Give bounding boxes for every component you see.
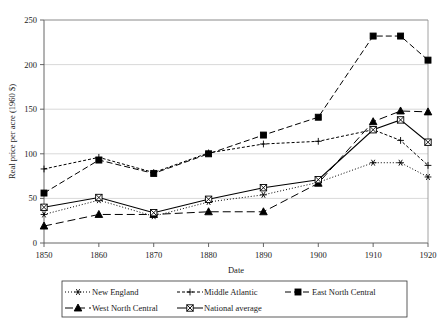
legend-entry-label: Middle Atlantic [204,287,258,297]
data-series [40,33,432,229]
data-point-marker [398,33,404,39]
data-point-marker [96,157,102,163]
chart-container: 050100150200250 185018601870188018901900… [0,0,441,323]
y-tick-label: 200 [24,60,37,70]
series-east-north-central [41,33,431,196]
legend-entry-east-north-central[interactable]: East North Central [285,287,376,297]
y-tick-label: 50 [29,193,38,203]
legend-entry-label: National average [204,303,262,313]
y-tick-label: 100 [24,149,37,159]
x-tick-label: 1900 [310,250,327,260]
data-point-marker [95,210,103,217]
x-tick-label: 1920 [420,250,437,260]
series-line [44,163,428,217]
data-point-marker [370,33,376,39]
x-axis-ticks: 18501860187018801890190019101920 [36,243,437,260]
x-tick-label: 1880 [200,250,217,260]
y-tick-label: 0 [33,238,37,248]
y-axis-title: Real price per acre (1960 $) [7,84,17,179]
data-point-marker [369,118,377,125]
legend-marker [295,289,301,295]
y-tick-label: 150 [24,104,37,114]
data-point-marker [41,190,47,196]
data-point-marker [315,114,321,120]
line-chart: 050100150200250 185018601870188018901900… [0,0,441,323]
data-point-marker [260,132,266,138]
x-tick-label: 1910 [365,250,382,260]
legend-entry-label: East North Central [312,287,376,297]
series-west-north-central [40,107,432,229]
data-point-marker [206,151,212,157]
data-point-marker [397,107,405,114]
series-national-average [41,117,431,216]
x-tick-label: 1890 [255,250,272,260]
x-axis-title: Date [228,265,244,275]
x-tick-label: 1870 [145,250,162,260]
x-tick-label: 1850 [36,250,53,260]
legend-entry-national-average[interactable]: National average [177,303,262,313]
series-line [44,130,428,173]
series-line [44,36,428,193]
data-point-marker [425,57,431,63]
gridlines [44,20,428,198]
legend-entry-west-north-central[interactable]: West North Central [65,303,159,313]
y-axis-ticks: 050100150200250 [24,15,44,248]
legend-entry-middle-atlantic[interactable]: Middle Atlantic [177,287,258,297]
series-middle-atlantic [41,126,432,176]
chart-legend: New EnglandMiddle AtlanticEast North Cen… [62,281,407,317]
y-tick-label: 250 [24,15,37,25]
legend-entry-new-england[interactable]: New England [65,287,139,297]
x-tick-label: 1860 [90,250,107,260]
legend-entry-label: New England [92,287,139,297]
data-point-marker [151,170,157,176]
legend-entry-label: West North Central [92,303,159,313]
